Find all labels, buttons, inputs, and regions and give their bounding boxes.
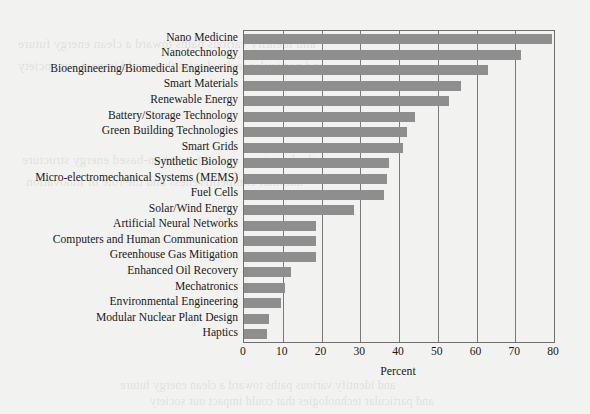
bar: [244, 158, 389, 168]
bar-row: [244, 62, 554, 78]
bar: [244, 112, 415, 122]
x-tick-label: 70: [499, 345, 529, 358]
bar-row: [244, 311, 554, 327]
bar: [244, 65, 488, 75]
category-label: Battery/Storage Technology: [0, 110, 238, 122]
bar-row: [244, 202, 554, 218]
bar-row: [244, 218, 554, 234]
bar-row: [244, 264, 554, 280]
bar-row: [244, 124, 554, 140]
category-label: Nano Medicine: [0, 32, 238, 44]
bar-row: [244, 47, 554, 63]
bar: [244, 252, 316, 262]
category-label: Computers and Human Communication: [0, 234, 238, 246]
bar: [244, 205, 354, 215]
x-tick-label: 80: [538, 345, 568, 358]
plot-area: [243, 30, 555, 343]
bar-row: [244, 249, 554, 265]
category-label: Green Building Technologies: [0, 125, 238, 137]
category-label: Artificial Neural Networks: [0, 218, 238, 230]
category-label: Bioengineering/Biomedical Engineering: [0, 63, 238, 75]
category-label: Environmental Engineering: [0, 296, 238, 308]
category-label: Modular Nuclear Plant Design: [0, 312, 238, 324]
bar-row: [244, 140, 554, 156]
bar-row: [244, 326, 554, 342]
bar-row: [244, 187, 554, 203]
bar-row: [244, 78, 554, 94]
category-label: Renewable Energy: [0, 94, 238, 106]
category-label: Smart Materials: [0, 78, 238, 90]
bar: [244, 283, 285, 293]
bar: [244, 236, 316, 246]
bar-row: [244, 31, 554, 47]
category-label: Nanotechnology: [0, 47, 238, 59]
category-label: Fuel Cells: [0, 187, 238, 199]
bar: [244, 221, 316, 231]
x-tick-label: 40: [383, 345, 413, 358]
bar-row: [244, 93, 554, 109]
bar-row: [244, 233, 554, 249]
x-tick-label: 60: [461, 345, 491, 358]
bar: [244, 190, 384, 200]
bar-chart-figure: Nano MedicineNanotechnologyBioengineerin…: [0, 0, 590, 414]
bar-row: [244, 171, 554, 187]
bar: [244, 267, 291, 277]
category-label: Synthetic Biology: [0, 156, 238, 168]
bar: [244, 329, 267, 339]
bar: [244, 96, 449, 106]
bar: [244, 314, 269, 324]
category-label: Haptics: [0, 327, 238, 339]
category-axis-labels: Nano MedicineNanotechnologyBioengineerin…: [0, 30, 238, 341]
category-label: Mechatronics: [0, 281, 238, 293]
bar-row: [244, 155, 554, 171]
bar: [244, 143, 403, 153]
x-tick-label: 50: [422, 345, 452, 358]
category-label: Enhanced Oil Recovery: [0, 265, 238, 277]
x-tick-label: 10: [267, 345, 297, 358]
bar: [244, 81, 461, 91]
bar: [244, 34, 552, 44]
category-label: Solar/Wind Energy: [0, 203, 238, 215]
x-tick-label: 30: [344, 345, 374, 358]
value-axis-tick-labels: 01020304050607080: [0, 345, 590, 361]
x-tick-label: 0: [228, 345, 258, 358]
bar-row: [244, 295, 554, 311]
bar: [244, 50, 521, 60]
category-label: Micro-electromechanical Systems (MEMS): [0, 172, 238, 184]
bar-row: [244, 109, 554, 125]
bar-row: [244, 280, 554, 296]
bar: [244, 127, 407, 137]
category-label: Smart Grids: [0, 141, 238, 153]
bar: [244, 298, 281, 308]
bar: [244, 174, 387, 184]
x-axis-title: Percent: [243, 364, 553, 379]
category-label: Greenhouse Gas Mitigation: [0, 249, 238, 261]
x-tick-label: 20: [306, 345, 336, 358]
